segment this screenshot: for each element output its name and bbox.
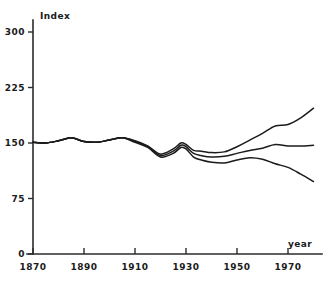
x-axis-ticks [33, 248, 288, 254]
line-chart: 075150225300 187018901910193019501970 In… [0, 0, 329, 286]
y-tick-label: 300 [5, 27, 25, 37]
x-tick-label: 1890 [70, 262, 97, 272]
y-tick-label: 225 [5, 83, 25, 93]
series-lines [33, 108, 314, 181]
x-tick-label: 1870 [19, 262, 46, 272]
y-axis-label: Index [40, 11, 70, 21]
x-tick-label: 1930 [172, 262, 199, 272]
y-axis-tick-labels: 075150225300 [5, 27, 25, 259]
x-tick-label: 1910 [121, 262, 148, 272]
y-tick-label: 150 [5, 138, 25, 148]
x-tick-label: 1950 [223, 262, 250, 272]
x-axis-tick-labels: 187018901910193019501970 [19, 262, 301, 272]
y-tick-label: 0 [18, 249, 25, 259]
chart-container: 075150225300 187018901910193019501970 In… [0, 0, 329, 286]
series-line-upper [33, 108, 314, 154]
series-line-middle [33, 138, 314, 157]
y-tick-label: 75 [11, 194, 25, 204]
x-tick-label: 1970 [274, 262, 301, 272]
x-axis-label: year [288, 239, 312, 249]
axes-group [27, 20, 322, 254]
series-line-lower [33, 138, 314, 182]
